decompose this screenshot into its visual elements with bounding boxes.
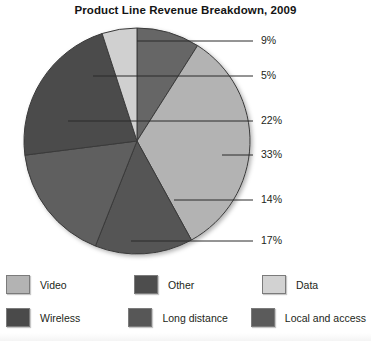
legend-item[interactable]: Wireless: [6, 308, 128, 327]
percent-label: 17%: [261, 234, 282, 246]
percent-label: 5%: [261, 69, 276, 81]
legend-label: Long distance: [162, 312, 227, 324]
legend-swatch: [6, 308, 30, 327]
legend-swatch: [6, 275, 30, 294]
legend-row: WirelessLong distanceLocal and access: [6, 301, 366, 334]
legend-label: Wireless: [40, 312, 80, 324]
percent-label: 22%: [261, 114, 282, 126]
legend-row: VideoOtherData: [6, 268, 366, 301]
pie-chart-figure: Product Line Revenue Breakdown, 2009 9%3…: [0, 0, 371, 341]
legend-item[interactable]: Data: [262, 275, 318, 294]
legend-item[interactable]: Video: [6, 275, 134, 294]
legend-label: Local and access: [285, 312, 366, 324]
chart-legend: VideoOtherDataWirelessLong distanceLocal…: [6, 268, 366, 334]
legend-swatch: [128, 308, 152, 327]
percent-label: 33%: [261, 148, 282, 160]
legend-label: Other: [168, 279, 194, 291]
percent-label: 9%: [261, 34, 276, 46]
page-edge-shadow: [0, 333, 371, 341]
legend-item[interactable]: Other: [134, 275, 262, 294]
legend-swatch: [251, 308, 275, 327]
legend-item[interactable]: Long distance: [128, 308, 250, 327]
legend-label: Data: [296, 279, 318, 291]
legend-swatch: [262, 275, 286, 294]
legend-swatch: [134, 275, 158, 294]
percent-label: 14%: [261, 193, 282, 205]
legend-item[interactable]: Local and access: [251, 308, 366, 327]
legend-label: Video: [40, 279, 67, 291]
